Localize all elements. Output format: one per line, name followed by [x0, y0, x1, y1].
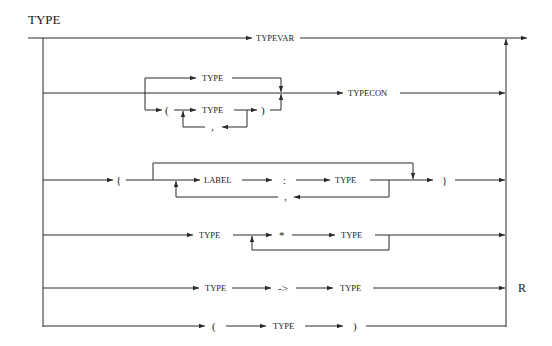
- row-function: TYPE -> TYPE: [43, 282, 505, 294]
- token-typecon-single-type: TYPE: [202, 73, 223, 83]
- token-paren-type: TYPE: [273, 321, 294, 331]
- token-record-close-brace: }: [442, 174, 447, 186]
- token-record-label: LABEL: [204, 175, 231, 185]
- token-record-open-brace: {: [116, 174, 121, 186]
- diagram-title: TYPE: [28, 12, 61, 27]
- row-tuple: TYPE * TYPE: [43, 229, 505, 250]
- main-spine: [28, 38, 43, 327]
- row-typecon: TYPE ( TYPE ) , TYPECON: [43, 73, 505, 132]
- token-record-type: TYPE: [335, 175, 356, 185]
- token-paren-close: ): [353, 320, 357, 333]
- token-function-left-type: TYPE: [205, 283, 226, 293]
- side-label-r: R: [518, 281, 526, 295]
- token-tuple-right-type: TYPE: [341, 230, 362, 240]
- token-paren-open: (: [212, 320, 216, 333]
- token-tuple-star: *: [279, 229, 285, 241]
- token-function-right-type: TYPE: [340, 283, 361, 293]
- token-function-arrow: ->: [278, 282, 288, 294]
- token-tuple-left-type: TYPE: [199, 230, 220, 240]
- token-typecon-close-paren: ): [261, 104, 265, 117]
- token-typecon-comma: ,: [211, 120, 214, 132]
- row-record: { LABEL : TYPE } ,: [43, 163, 505, 202]
- token-typecon-open-paren: (: [165, 104, 169, 117]
- token-typecon-inner-type: TYPE: [202, 105, 223, 115]
- token-record-colon: :: [283, 174, 286, 186]
- token-typecon: TYPECON: [348, 88, 387, 98]
- token-record-comma: ,: [284, 190, 287, 202]
- row-typevar: TYPEVAR: [43, 33, 506, 43]
- row-paren: ( TYPE ): [43, 320, 506, 333]
- syntax-diagram: TYPE R TYPEVAR TYPE ( TYPE ): [0, 0, 552, 346]
- token-typevar: TYPEVAR: [256, 33, 294, 43]
